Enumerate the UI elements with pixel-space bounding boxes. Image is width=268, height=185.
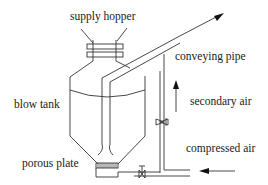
blow-tank — [70, 61, 145, 177]
arrow-left-icon — [199, 168, 209, 174]
secondary-air-line — [134, 54, 190, 176]
supply-hopper — [87, 40, 123, 61]
label-secondary-air: secondary air — [190, 95, 252, 108]
blow-tank-diagram: supply hopper — [0, 0, 268, 185]
arrow-icon — [214, 13, 224, 21]
conveying-pipe — [98, 13, 224, 155]
label-porous-plate: porous plate — [22, 157, 79, 170]
label-conveying-pipe: conveying pipe — [175, 50, 246, 63]
label-compressed-air: compressed air — [186, 142, 255, 155]
leader-line — [81, 29, 93, 43]
leader-line — [117, 28, 127, 41]
label-blow-tank: blow tank — [14, 98, 60, 110]
label-supply-hopper: supply hopper — [70, 10, 136, 23]
arrow-up-icon — [173, 80, 179, 89]
